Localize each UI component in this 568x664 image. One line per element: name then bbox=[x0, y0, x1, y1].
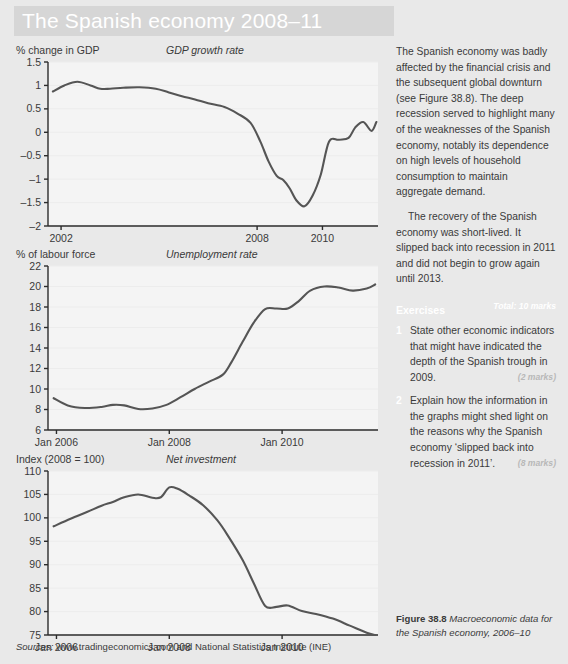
sidebar-text-column: The Spanish economy was badly affected b… bbox=[396, 44, 556, 471]
svg-text:110: 110 bbox=[24, 465, 41, 477]
chart-2-plot: 6810121416182022Jan 2006Jan 2008Jan 2010 bbox=[0, 258, 388, 460]
exercise-1-number: 1 bbox=[396, 323, 402, 339]
svg-text:–0.5: –0.5 bbox=[21, 149, 42, 161]
svg-text:14: 14 bbox=[29, 342, 41, 354]
svg-text:2002: 2002 bbox=[49, 232, 73, 244]
exercises-header: Exercises Total: 10 marks bbox=[396, 300, 556, 315]
exercise-1-marks: (2 marks) bbox=[518, 370, 556, 386]
svg-text:1: 1 bbox=[35, 79, 41, 91]
svg-text:10: 10 bbox=[29, 383, 41, 395]
svg-text:2008: 2008 bbox=[245, 232, 269, 244]
figure-caption: Figure 38.8 Macroeconomic data for the S… bbox=[396, 612, 560, 640]
svg-text:2010: 2010 bbox=[311, 232, 335, 244]
svg-text:100: 100 bbox=[23, 511, 41, 523]
svg-text:Jan 2010: Jan 2010 bbox=[260, 436, 303, 448]
figure-caption-label: Figure 38.8 bbox=[396, 613, 447, 624]
svg-text:85: 85 bbox=[29, 582, 41, 594]
svg-text:20: 20 bbox=[29, 280, 41, 292]
svg-text:16: 16 bbox=[29, 321, 41, 333]
exercise-item-1: 1 State other economic indicators that m… bbox=[396, 323, 556, 385]
exercises-title: Exercises bbox=[396, 304, 445, 316]
svg-text:1.5: 1.5 bbox=[26, 56, 41, 68]
exercise-item-2: 2 Explain how the information in the gra… bbox=[396, 393, 556, 471]
sources-text: www.tradingeconomics.com and National St… bbox=[54, 641, 332, 652]
svg-text:–1.5: –1.5 bbox=[21, 196, 42, 208]
svg-text:0.5: 0.5 bbox=[26, 102, 41, 114]
page-title: The Spanish economy 2008–11 bbox=[22, 9, 322, 33]
chart-3-plot: 7580859095100105110Jan 2006Jan 2008Jan 2… bbox=[0, 463, 388, 664]
svg-text:75: 75 bbox=[29, 629, 41, 641]
sources-label: Sources: bbox=[16, 641, 54, 652]
svg-text:–2: –2 bbox=[29, 220, 41, 232]
svg-text:80: 80 bbox=[29, 605, 41, 617]
svg-text:90: 90 bbox=[29, 558, 41, 570]
exercises-total-marks: Total: 10 marks bbox=[493, 301, 556, 311]
article-paragraph-1: The Spanish economy was badly affected b… bbox=[396, 44, 556, 200]
svg-text:18: 18 bbox=[29, 301, 41, 313]
exercise-2-marks: (8 marks) bbox=[518, 456, 556, 472]
svg-text:–1: –1 bbox=[29, 173, 41, 185]
svg-text:Jan 2008: Jan 2008 bbox=[148, 436, 191, 448]
svg-text:105: 105 bbox=[23, 488, 41, 500]
svg-text:22: 22 bbox=[29, 260, 41, 272]
svg-text:12: 12 bbox=[29, 362, 41, 374]
svg-text:6: 6 bbox=[35, 424, 41, 436]
svg-text:0: 0 bbox=[35, 126, 41, 138]
article-paragraph-2: The recovery of the Spanish economy was … bbox=[396, 209, 556, 287]
chart-1-plot: –2–1.5–1–0.500.511.5200220082010 bbox=[0, 54, 388, 256]
exercise-2-number: 2 bbox=[396, 393, 402, 409]
svg-text:Jan 2006: Jan 2006 bbox=[35, 436, 78, 448]
sources-line: Sources: www.tradingeconomics.com and Na… bbox=[16, 641, 331, 652]
svg-text:95: 95 bbox=[29, 535, 41, 547]
textbook-page: The Spanish economy 2008–11 % change in … bbox=[0, 0, 568, 664]
svg-text:8: 8 bbox=[35, 403, 41, 415]
